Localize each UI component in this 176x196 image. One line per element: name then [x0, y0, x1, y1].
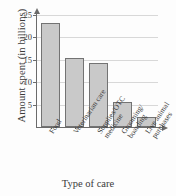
y-axis-tick-label: 10: [24, 78, 33, 87]
y-axis-title: Amount spent (in billions): [16, 1, 27, 131]
x-axis-title: Type of care: [0, 178, 176, 189]
y-axis-tick-label: 5: [28, 100, 32, 109]
y-axis-tick-label: 25: [24, 10, 33, 19]
y-axis-tick-label: 15: [24, 55, 33, 64]
bar: [41, 23, 60, 127]
bar-chart: Amount spent (in billions) 510152025 Foo…: [0, 0, 176, 196]
x-axis-category-labels: FoodVeterinarian careSupplies/OTCmedicin…: [36, 129, 176, 177]
y-axis-tick-label: 20: [24, 33, 33, 42]
